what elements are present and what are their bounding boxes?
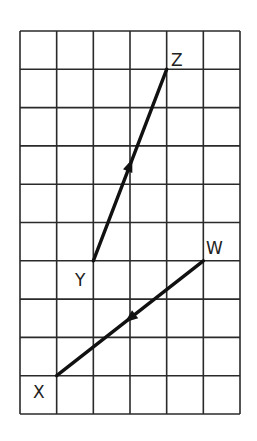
label-X: X bbox=[33, 382, 45, 402]
vector-grid-diagram: W X Y Z bbox=[0, 0, 257, 441]
point-labels: W X Y Z bbox=[33, 50, 223, 402]
grid bbox=[20, 31, 240, 414]
label-W: W bbox=[206, 238, 223, 258]
label-Z: Z bbox=[171, 50, 183, 70]
vector-YZ-arrowhead-icon bbox=[123, 159, 132, 173]
label-Y: Y bbox=[74, 270, 86, 290]
